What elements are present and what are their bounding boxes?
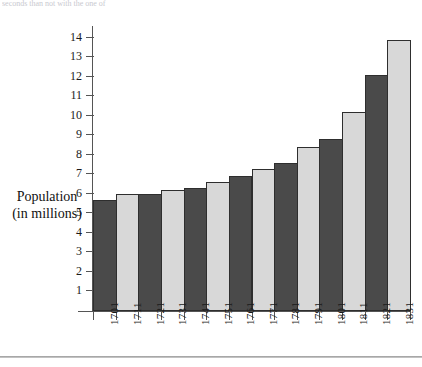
bar-1831 <box>387 40 411 311</box>
y-tick-label: 4 <box>58 225 82 240</box>
x-tick-label-1721: 1721 <box>155 302 166 325</box>
y-tick-label: 8 <box>58 147 82 162</box>
y-tick-label: 9 <box>58 127 82 142</box>
bar-1701 <box>93 200 117 311</box>
bar-1771 <box>252 169 276 312</box>
x-tick-label-1771: 1771 <box>268 302 279 325</box>
bar-1721 <box>138 194 162 311</box>
y-tick-label: 7 <box>58 166 82 181</box>
y-tick-label: 2 <box>58 264 82 279</box>
x-tick-label-1731: 1731 <box>177 302 188 325</box>
y-tick-label: 14 <box>58 30 82 45</box>
x-tick-label-1821: 1821 <box>381 302 392 325</box>
x-tick-label-1791: 1791 <box>313 302 324 325</box>
y-tick-label: 6 <box>58 186 82 201</box>
y-tick-label: 5 <box>58 205 82 220</box>
y-tick-label: 3 <box>58 244 82 259</box>
x-tick-label-1711: 1711 <box>132 302 143 325</box>
bar-1801 <box>319 139 343 311</box>
bar-1811 <box>342 112 366 311</box>
bar-1751 <box>206 182 230 311</box>
x-tick-label-1801: 1801 <box>336 302 347 325</box>
y-tick-label: 1 <box>58 283 82 298</box>
x-tick-label-1741: 1741 <box>200 302 211 325</box>
y-tick-label: 13 <box>58 49 82 64</box>
x-tick-label-1701: 1701 <box>109 302 120 325</box>
bar-1781 <box>274 163 298 311</box>
plot-area <box>93 26 410 311</box>
bar-1761 <box>229 176 253 311</box>
x-tick-label-1781: 1781 <box>290 302 301 325</box>
bar-1821 <box>365 75 389 311</box>
bar-1741 <box>184 188 208 311</box>
y-tick-label: 10 <box>58 108 82 123</box>
x-tick-label-1831: 1831 <box>404 302 415 325</box>
x-tick-mark <box>93 311 94 320</box>
y-tick-label: 11 <box>58 88 82 103</box>
x-tick-label-1761: 1761 <box>245 302 256 325</box>
bar-1731 <box>161 190 185 311</box>
bar-1711 <box>116 194 140 311</box>
x-tick-label-1751: 1751 <box>223 302 234 325</box>
x-tick-label-1811: 1811 <box>358 302 369 325</box>
population-bar-chart: Population (in millions) 123456789101112… <box>0 0 422 367</box>
y-tick-label: 12 <box>58 69 82 84</box>
bar-1791 <box>297 147 321 311</box>
footer-divider <box>0 356 422 358</box>
